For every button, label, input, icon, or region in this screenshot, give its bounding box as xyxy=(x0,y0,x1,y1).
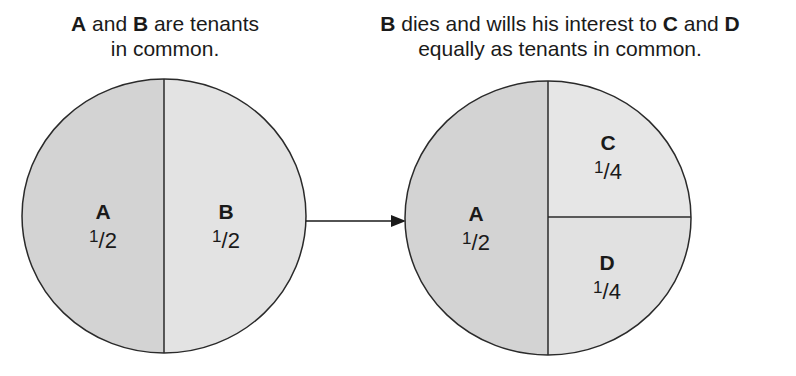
arrow-icon xyxy=(306,215,406,227)
numerator: 1 xyxy=(89,227,98,246)
numerator: 1 xyxy=(212,227,221,246)
share-fraction: 1/2 xyxy=(446,226,506,256)
share-label-a-before: A 1/2 xyxy=(73,200,133,254)
owner-name: C xyxy=(578,131,638,155)
share-fraction: 1/4 xyxy=(578,155,638,185)
denominator: 4 xyxy=(609,279,621,304)
share-fraction: 1/4 xyxy=(577,275,637,305)
share-label-c-after: C 1/4 xyxy=(578,131,638,185)
share-label-b-before: B 1/2 xyxy=(196,200,256,254)
numerator: 1 xyxy=(594,158,603,177)
owner-name: B xyxy=(196,200,256,224)
denominator: 4 xyxy=(610,159,622,184)
share-fraction: 1/2 xyxy=(73,224,133,254)
denominator: 2 xyxy=(228,228,240,253)
denominator: 2 xyxy=(478,230,490,255)
owner-name: A xyxy=(446,202,506,226)
share-label-a-after: A 1/2 xyxy=(446,202,506,256)
pie-before xyxy=(22,79,306,353)
owner-name: A xyxy=(73,200,133,224)
numerator: 1 xyxy=(593,278,602,297)
denominator: 2 xyxy=(105,228,117,253)
numerator: 1 xyxy=(462,229,471,248)
owner-name: D xyxy=(577,251,637,275)
share-label-d-after: D 1/4 xyxy=(577,251,637,305)
share-fraction: 1/2 xyxy=(196,224,256,254)
ownership-diagram xyxy=(0,0,796,376)
